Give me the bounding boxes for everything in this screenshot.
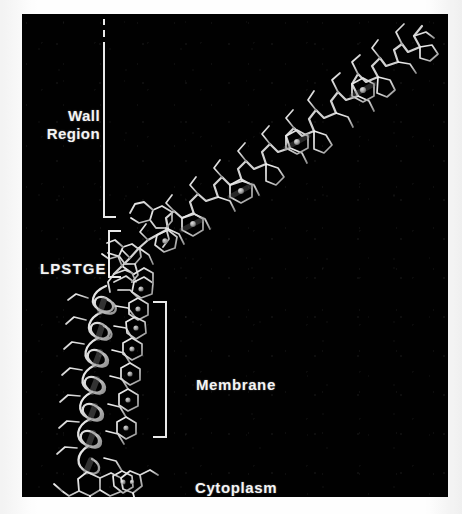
wall-region-label-line2: Region: [47, 125, 100, 142]
wall-region-ribbon-shading: [182, 84, 374, 230]
cytoplasmic-tail-cluster: [54, 470, 158, 497]
molecular-structure-drawing: [22, 14, 448, 497]
wall-region-label: WallRegion: [22, 107, 100, 142]
figure-root: Membrane Cytoplasm WallRegion LPSTGE: [0, 0, 462, 514]
wall-region-chain: [114, 26, 422, 274]
membrane-label: Membrane: [196, 376, 276, 394]
wall-region-sidechains: [122, 24, 438, 282]
wall-region-label-line1: Wall: [68, 107, 100, 124]
lpstge-label: LPSTGE: [22, 260, 122, 278]
molecular-image-panel: Membrane Cytoplasm WallRegion LPSTGE: [22, 14, 448, 497]
cytoplasm-label: Cytoplasm: [195, 479, 277, 497]
